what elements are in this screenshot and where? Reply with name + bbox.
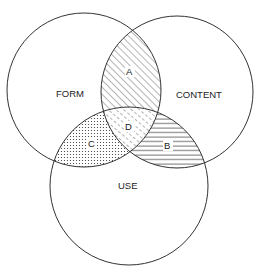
venn-svg: FORM CONTENT USE A B C D — [0, 0, 257, 276]
label-a: A — [126, 66, 133, 77]
label-b: B — [164, 140, 170, 151]
label-content: CONTENT — [176, 89, 222, 100]
venn-diagram: FORM CONTENT USE A B C D — [0, 0, 257, 276]
label-c: C — [88, 138, 95, 149]
label-use: USE — [118, 180, 138, 191]
label-d: D — [125, 121, 132, 132]
label-form: FORM — [56, 88, 84, 99]
